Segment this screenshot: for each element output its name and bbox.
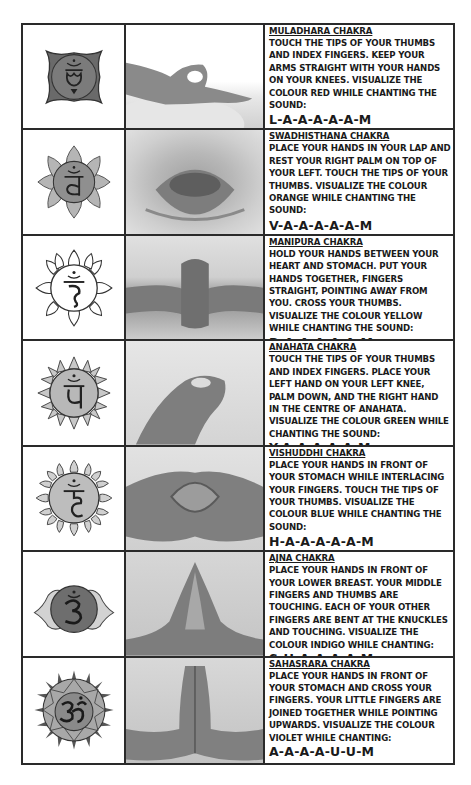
symbol-cell-ajna bbox=[23, 552, 126, 657]
chakra-name: ANAHATA CHAKRA bbox=[269, 342, 451, 353]
chakra-mudra-table: MULADHARA CHAKRA TOUCH THE TIPS OF YOUR … bbox=[21, 23, 455, 765]
interlaced-fingers-photo bbox=[126, 447, 263, 550]
text-cell-manipura: MANIPURA CHAKRA HOLD YOUR HANDS BETWEEN … bbox=[265, 236, 453, 341]
symbol-cell-sahasrara bbox=[23, 658, 126, 763]
text-cell-muladhara: MULADHARA CHAKRA TOUCH THE TIPS OF YOUR … bbox=[265, 25, 453, 130]
chakra-mantra: A-A-A-A-U-U-M bbox=[269, 744, 451, 759]
hand-at-heart-photo bbox=[126, 341, 263, 444]
chakra-mantra: R-A-A-A-A-A-M bbox=[269, 335, 451, 342]
symbol-cell-manipura bbox=[23, 236, 126, 341]
chakra-mantra: V-A-A-A-A-A-M bbox=[269, 218, 451, 233]
chakra-instruction: PLACE YOUR HANDS IN YOUR LAP AND REST YO… bbox=[269, 142, 451, 216]
photo-cell-muladhara bbox=[126, 25, 265, 130]
photo-cell-sahasrara bbox=[126, 658, 265, 763]
chakra-instruction: PLACE YOUR HANDS IN FRONT OF YOUR STOMAC… bbox=[269, 670, 451, 744]
chakra-name: AJNA CHAKRA bbox=[269, 553, 451, 564]
anahata-symbol-icon bbox=[31, 350, 117, 436]
prayer-hands-photo bbox=[126, 658, 263, 763]
text-cell-swadhisthana: SWADHISTHANA CHAKRA PLACE YOUR HANDS IN … bbox=[265, 130, 453, 235]
photo-cell-swadhisthana bbox=[126, 130, 265, 235]
chakra-instruction: HOLD YOUR HANDS BETWEEN YOUR HEART AND S… bbox=[269, 248, 451, 335]
chakra-name: SWADHISTHANA CHAKRA bbox=[269, 131, 451, 142]
chin-mudra-hand-photo bbox=[126, 25, 263, 128]
chakra-mantra: H-A-A-A-A-A-M bbox=[269, 534, 451, 549]
chakra-instruction: PLACE YOUR HANDS IN FRONT OF YOUR LOWER … bbox=[269, 564, 451, 651]
chakra-mantra: Y-A-A-A-A-A-M bbox=[269, 440, 451, 447]
chakra-name: SAHASRARA CHAKRA bbox=[269, 659, 451, 670]
photo-cell-vishuddhi bbox=[126, 447, 265, 552]
symbol-cell-anahata bbox=[23, 341, 126, 446]
photo-cell-anahata bbox=[126, 341, 265, 446]
hands-together-photo bbox=[126, 236, 263, 339]
photo-cell-manipura bbox=[126, 236, 265, 341]
chakra-name: MANIPURA CHAKRA bbox=[269, 237, 451, 248]
chakra-mantra: S-H-A-A-A-A-M bbox=[269, 651, 451, 658]
text-cell-ajna: AJNA CHAKRA PLACE YOUR HANDS IN FRONT OF… bbox=[265, 552, 453, 657]
symbol-cell-vishuddhi bbox=[23, 447, 126, 552]
chakra-instruction: PLACE YOUR HANDS IN FRONT OF YOUR STOMAC… bbox=[269, 459, 451, 533]
muladhara-symbol-icon bbox=[31, 34, 117, 120]
symbol-cell-swadhisthana bbox=[23, 130, 126, 235]
text-cell-vishuddhi: VISHUDDHI CHAKRA PLACE YOUR HANDS IN FRO… bbox=[265, 447, 453, 552]
chakra-instruction: TOUCH THE TIPS OF YOUR THUMBS AND INDEX … bbox=[269, 353, 451, 440]
steeple-hands-photo bbox=[126, 552, 263, 655]
chakra-name: VISHUDDHI CHAKRA bbox=[269, 448, 451, 459]
chakra-name: MULADHARA CHAKRA bbox=[269, 26, 451, 37]
chakra-mantra: L-A-A-A-A-A-M bbox=[269, 112, 451, 127]
text-cell-sahasrara: SAHASRARA CHAKRA PLACE YOUR HANDS IN FRO… bbox=[265, 658, 453, 763]
chakra-instruction: TOUCH THE TIPS OF YOUR THUMBS AND INDEX … bbox=[269, 37, 451, 111]
vishuddhi-symbol-icon bbox=[31, 455, 117, 541]
ajna-symbol-icon bbox=[31, 561, 117, 647]
text-cell-anahata: ANAHATA CHAKRA TOUCH THE TIPS OF YOUR TH… bbox=[265, 341, 453, 446]
hands-in-lap-photo bbox=[126, 130, 263, 233]
swadhisthana-symbol-icon bbox=[31, 139, 117, 225]
sahasrara-om-symbol-icon bbox=[31, 667, 117, 753]
manipura-symbol-icon bbox=[31, 245, 117, 331]
symbol-cell-muladhara bbox=[23, 25, 126, 130]
photo-cell-ajna bbox=[126, 552, 265, 657]
